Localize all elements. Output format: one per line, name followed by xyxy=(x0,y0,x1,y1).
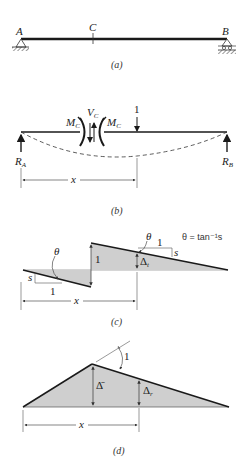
panel-d-moment-influence: 1 Δ̄ Δr x (d) xyxy=(23,341,229,457)
moment-label-right: MC xyxy=(106,116,121,130)
run-left-label: 1 xyxy=(50,285,56,297)
rotation-arc xyxy=(118,347,123,369)
influence-region xyxy=(23,364,229,407)
slope-left-label: s xyxy=(28,271,32,283)
reaction-b-label: RB xyxy=(221,155,234,169)
caption-d: (d) xyxy=(113,445,125,457)
theta-right-label: θ xyxy=(146,230,152,242)
roller-support-icon xyxy=(218,39,236,54)
deflected-shape xyxy=(21,132,227,157)
moment-left-icon xyxy=(80,118,85,146)
dimension-x-label: x xyxy=(73,294,79,306)
label-c: C xyxy=(89,21,97,33)
label-a: A xyxy=(15,25,23,37)
unit-load-label: 1 xyxy=(134,103,140,115)
shear-label: VC xyxy=(87,106,99,120)
panel-c-shear-influence: 1 s 1 θ 1 s θ θ = tan⁻¹s Δt x (c) xyxy=(21,230,228,328)
moment-right-icon xyxy=(100,118,105,146)
label-b: B xyxy=(222,25,229,37)
run-right-label: 1 xyxy=(157,236,163,248)
theta-left-label: θ xyxy=(54,245,60,257)
caption-a: (a) xyxy=(111,59,123,71)
caption-b: (b) xyxy=(111,205,123,217)
jump-label: 1 xyxy=(95,253,101,265)
slope-right-label: s xyxy=(174,246,178,258)
reaction-a-label: RA xyxy=(14,155,27,169)
panel-a-simple-beam: A C B (a) xyxy=(12,21,236,71)
influence-line-diagram: A C B (a) 1 MC MC VC RA RB xyxy=(0,0,244,465)
caption-c: (c) xyxy=(111,316,123,328)
dimension-x-label: x xyxy=(78,418,84,430)
theta-formula: θ = tan⁻¹s xyxy=(182,232,223,242)
dimension-x-label: x xyxy=(70,173,76,185)
moment-label-left: MC xyxy=(65,116,80,130)
pin-support-icon xyxy=(12,39,29,51)
panel-b-free-body: 1 MC MC VC RA RB x (b) xyxy=(14,103,234,217)
rotation-label: 1 xyxy=(124,350,130,362)
